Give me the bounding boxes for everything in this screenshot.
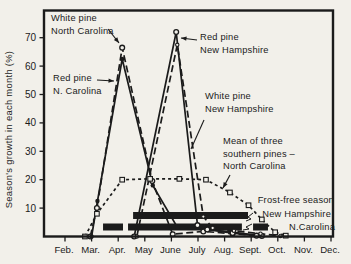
x-tick-label: Dec. [312, 244, 348, 255]
annotation-line: North Carolina [51, 25, 114, 38]
data-point-marker [232, 229, 235, 232]
data-point-marker [151, 183, 155, 187]
data-point-marker [148, 177, 153, 182]
y-tick-label: 40 [16, 117, 36, 128]
annotation-line: southern pines – [223, 148, 295, 161]
data-point-marker [204, 177, 209, 182]
frost-free-bar [103, 224, 123, 231]
y-tick-label: 60 [16, 61, 36, 72]
annotation-line: North Carolina [223, 160, 295, 173]
annotation-line: Red pine [200, 31, 269, 44]
growth-chart-figure: Season's growth in each month (%) White … [0, 0, 351, 264]
annotation-line: New Hampshire [200, 44, 269, 57]
frost-free-nc-pointer [243, 224, 252, 230]
annotation-line: Mean of three [223, 135, 295, 148]
frost-free-bar [133, 212, 248, 219]
y-tick-label: 70 [16, 32, 36, 43]
annotation-line: Red pine [53, 72, 102, 85]
data-point-marker [120, 45, 125, 50]
data-point-marker [177, 177, 182, 182]
data-point-marker [228, 190, 233, 195]
data-point-marker [176, 43, 179, 46]
data-point-marker [95, 206, 100, 211]
y-tick-label: 10 [16, 203, 36, 214]
data-point-marker [195, 223, 200, 228]
data-point-marker [120, 57, 124, 61]
annotation-mean-southern: Mean of three southern pines – North Car… [223, 135, 295, 173]
frost-free-nc-label: N.Carolina [289, 221, 335, 234]
data-point-marker [120, 177, 125, 182]
annotation-arrowhead [223, 182, 228, 188]
data-point-marker [95, 199, 99, 203]
frost-free-bar [253, 224, 268, 231]
data-point-marker [95, 211, 100, 216]
frost-free-nh-label: New Hampshire [262, 208, 331, 221]
data-point-marker [202, 215, 205, 218]
data-point-marker [205, 227, 210, 232]
y-axis-title: Season's growth in each month (%) [3, 20, 16, 240]
annotation-leader-line [191, 120, 204, 149]
annotation-white-pine-nc: White pine North Carolina [51, 12, 114, 37]
annotation-red-pine-nc: Red pine N. Carolina [53, 72, 102, 97]
annotation-line: White pine [51, 12, 114, 25]
annotation-line: New Hampshire [205, 103, 274, 116]
annotation-line: White pine [205, 90, 274, 103]
data-point-marker [211, 226, 214, 229]
data-point-marker [175, 225, 179, 229]
data-point-marker [273, 230, 278, 235]
frost-free-title: Frost-free season [258, 194, 334, 207]
annotation-white-pine-nh: White pine New Hampshire [205, 90, 274, 115]
annotation-line: N. Carolina [53, 85, 102, 98]
annotation-arrowhead [108, 78, 114, 82]
data-point-marker [259, 232, 262, 235]
y-tick-label: 50 [16, 89, 36, 100]
y-tick-label: 30 [16, 146, 36, 157]
data-point-marker [174, 30, 179, 35]
data-point-marker [246, 203, 251, 208]
annotation-red-pine-nh: Red pine New Hampshire [200, 31, 269, 56]
y-tick-label: 20 [16, 174, 36, 185]
